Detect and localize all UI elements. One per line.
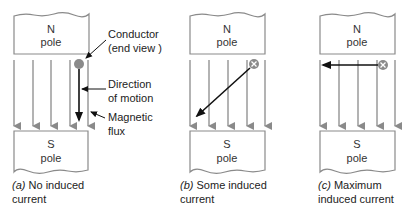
south-pole: S pole bbox=[190, 131, 265, 173]
south-pole-label: S bbox=[353, 138, 360, 150]
south-pole-label: S bbox=[223, 138, 230, 150]
panel-c: N pole S pole (c) Maximum induced curren… bbox=[318, 13, 395, 205]
panel-a: N pole S pole (a) No induced current Con… bbox=[12, 13, 162, 205]
north-pole: N pole bbox=[190, 13, 265, 54]
flux-lines bbox=[14, 60, 88, 126]
caption-a-line1: (a) No induced bbox=[12, 179, 84, 191]
motion-arrow bbox=[197, 68, 250, 116]
north-pole: N pole bbox=[320, 13, 395, 54]
north-pole-label: N bbox=[353, 23, 361, 35]
north-pole-sublabel: pole bbox=[41, 36, 62, 48]
motion-sublabel: of motion bbox=[108, 92, 153, 104]
caption-b-line2: current bbox=[180, 193, 214, 205]
south-pole: S pole bbox=[320, 131, 395, 173]
conductor-cross-icon bbox=[378, 60, 388, 70]
north-pole-sublabel: pole bbox=[347, 36, 368, 48]
north-pole-label: N bbox=[47, 23, 55, 35]
panel-b: N pole S pole (b) Some induced current bbox=[180, 13, 267, 205]
south-pole-label: S bbox=[47, 138, 54, 150]
flux-pointer bbox=[91, 112, 105, 118]
flux-label: Magnetic bbox=[108, 111, 153, 123]
south-pole-sublabel: pole bbox=[347, 152, 368, 164]
caption-c-line2: induced current bbox=[318, 193, 394, 205]
north-pole-sublabel: pole bbox=[217, 36, 238, 48]
caption-c-line1: (c) Maximum bbox=[318, 179, 382, 191]
conductor-label: Conductor bbox=[108, 28, 159, 40]
induction-diagram: N pole S pole (a) No induced current Con… bbox=[0, 0, 404, 213]
conductor-cross-icon bbox=[249, 59, 259, 69]
caption-a-line2: current bbox=[12, 193, 46, 205]
south-pole-sublabel: pole bbox=[217, 152, 238, 164]
conductor-dot-icon bbox=[74, 59, 84, 69]
north-pole-label: N bbox=[223, 23, 231, 35]
caption-b-line1: (b) Some induced bbox=[180, 179, 267, 191]
south-pole-sublabel: pole bbox=[41, 152, 62, 164]
flux-lines bbox=[190, 60, 265, 126]
flux-sublabel: flux bbox=[108, 125, 126, 137]
motion-label: Direction bbox=[108, 78, 151, 90]
south-pole: S pole bbox=[14, 131, 88, 173]
north-pole: N pole bbox=[14, 13, 89, 54]
conductor-sublabel: (end view ) bbox=[108, 42, 162, 54]
